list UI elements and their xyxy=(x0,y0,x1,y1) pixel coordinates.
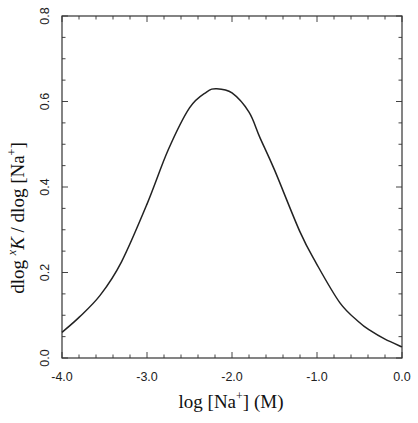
y-tick-label: 0.4 xyxy=(38,178,52,195)
x-tick-label: -4.0 xyxy=(51,370,73,384)
x-tick-label: 0.0 xyxy=(393,370,410,384)
x-tick-label: -3.0 xyxy=(136,370,158,384)
x-tick-label: -2.0 xyxy=(221,370,243,384)
y-tick-label: 0.2 xyxy=(38,264,52,281)
x-tick-labels: -4.0-3.0-2.0-1.00.0 xyxy=(51,370,411,384)
data-curve xyxy=(62,89,402,347)
x-tick-label: -1.0 xyxy=(306,370,328,384)
y-axis-label: dlog xK / dlog [Na+] xyxy=(5,142,28,293)
y-tick-label: 0.6 xyxy=(38,93,52,110)
axis-ticks xyxy=(62,16,402,358)
y-tick-label: 0.8 xyxy=(38,7,52,24)
plot-frame xyxy=(62,16,402,358)
y-tick-labels: 0.00.20.40.60.8 xyxy=(38,7,52,366)
y-tick-label: 0.0 xyxy=(38,349,52,366)
chart: -4.0-3.0-2.0-1.00.0 0.00.20.40.60.8 log … xyxy=(0,0,418,423)
x-axis-label: log [Na+] (M) xyxy=(179,389,284,413)
